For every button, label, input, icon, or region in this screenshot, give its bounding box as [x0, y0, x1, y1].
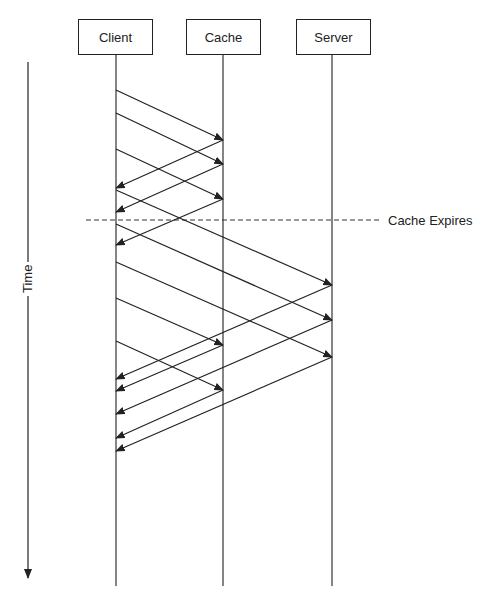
- message-arrow-cache-to-client: [116, 390, 223, 438]
- message-arrow-cache-to-client: [116, 140, 223, 188]
- time-axis-label: Time: [20, 262, 35, 296]
- message-arrow-cache-to-client: [116, 199, 223, 245]
- message-arrow-client-to-server: [116, 262, 332, 357]
- message-arrow-server-to-client: [116, 357, 332, 451]
- message-arrow-client-to-cache: [116, 298, 223, 345]
- message-arrow-cache-to-client: [116, 164, 223, 212]
- message-arrow-server-to-client: [116, 320, 332, 414]
- message-arrow-client-to-server: [116, 224, 332, 320]
- message-arrow-client-to-cache: [116, 341, 223, 390]
- cache-expires-label: Cache Expires: [388, 213, 473, 228]
- sequence-diagram-canvas: [0, 0, 494, 601]
- message-arrow-cache-to-client: [116, 345, 223, 391]
- message-arrow-client-to-server: [116, 190, 332, 285]
- message-arrow-client-to-cache: [116, 90, 223, 140]
- message-arrow-server-to-client: [116, 285, 332, 379]
